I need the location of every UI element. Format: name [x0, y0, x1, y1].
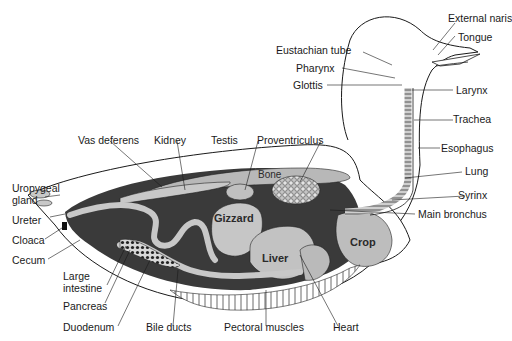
label-vas-deferens: Vas deferens: [78, 134, 139, 146]
label-heart: Heart: [333, 321, 359, 333]
label-pharynx: Pharynx: [296, 62, 335, 74]
label-uropygeal-gland-line1: Uropygeal: [12, 182, 60, 194]
label-large-intestine-line2: intestine: [63, 282, 102, 294]
label-cecum: Cecum: [12, 254, 45, 266]
label-eustachian-tube: Eustachian tube: [276, 44, 351, 56]
label-crop: Crop: [350, 236, 376, 248]
label-glottis: Glottis: [293, 79, 323, 91]
label-larynx: Larynx: [456, 84, 488, 96]
label-pectoral-muscles: Pectoral muscles: [224, 321, 304, 333]
label-main-bronchus: Main bronchus: [418, 208, 487, 220]
label-proventriculus: Proventriculus: [257, 134, 324, 146]
label-tongue: Tongue: [458, 31, 492, 43]
label-gizzard: Gizzard: [214, 212, 254, 224]
label-uropygeal-gland-line2: gland: [12, 194, 38, 206]
label-lung: Lung: [465, 165, 488, 177]
label-bone: Bone: [258, 169, 281, 180]
label-trachea: Trachea: [453, 113, 491, 125]
proventriculus: [272, 176, 320, 204]
label-duodenum: Duodenum: [63, 321, 114, 333]
label-external-naris: External naris: [448, 12, 512, 24]
label-ureter: Ureter: [12, 214, 41, 226]
label-large-intestine-line1: Large: [63, 270, 90, 282]
label-syrinx: Syrinx: [458, 189, 487, 201]
testis: [226, 184, 254, 200]
label-testis: Testis: [211, 134, 238, 146]
label-bile-ducts: Bile ducts: [146, 321, 192, 333]
label-esophagus: Esophagus: [441, 142, 494, 154]
label-kidney: Kidney: [154, 134, 186, 146]
label-pancreas: Pancreas: [63, 300, 107, 312]
label-cloaca: Cloaca: [12, 234, 45, 246]
label-liver: Liver: [262, 252, 288, 264]
